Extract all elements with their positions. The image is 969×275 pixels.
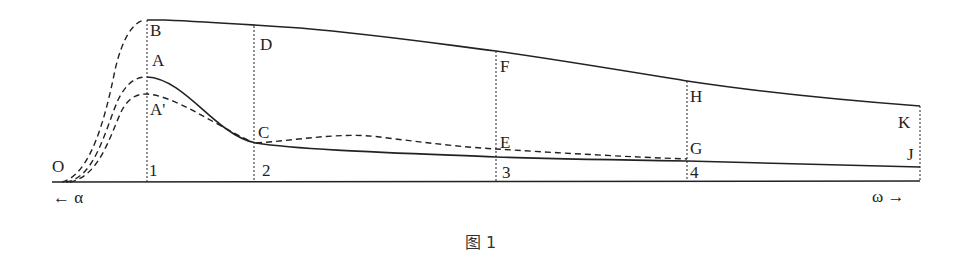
baseline-axis xyxy=(52,181,920,182)
label-C: C xyxy=(258,123,269,142)
dashed-rise-OA xyxy=(66,77,146,182)
figure-caption: 图 1 xyxy=(465,233,496,252)
label-H: H xyxy=(690,87,702,106)
label-J: J xyxy=(907,145,914,164)
label-K: K xyxy=(898,113,911,132)
station-2: 2 xyxy=(262,161,271,180)
station-3: 3 xyxy=(502,163,511,182)
diagram: B A A' C D F E H G K J O 1 2 3 4 ← α ω →… xyxy=(0,0,969,275)
label-G: G xyxy=(690,139,702,158)
dashed-rise-OB xyxy=(62,20,145,182)
label-A-prime: A' xyxy=(150,100,165,119)
station-1: 1 xyxy=(149,161,158,180)
label-E: E xyxy=(500,133,510,152)
upper-curve-BK xyxy=(147,20,920,106)
label-A: A xyxy=(152,51,165,70)
label-O: O xyxy=(52,157,64,176)
station-4: 4 xyxy=(690,163,699,182)
solid-curve-AJ xyxy=(147,77,920,167)
label-B: B xyxy=(150,21,161,40)
axis-alpha-label: ← α xyxy=(53,188,83,207)
label-F: F xyxy=(500,57,509,76)
axis-omega-label: ω → xyxy=(872,187,904,206)
label-D: D xyxy=(260,35,272,54)
